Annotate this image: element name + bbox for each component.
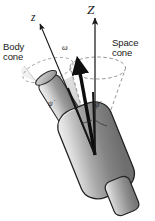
gyroscope-body-space-cone-figure: Body cone Space cone z Z ω ψ̇ φ̇ [0, 0, 155, 221]
figure-canvas [0, 0, 155, 221]
spin-rate-label: ψ̇ [48, 100, 53, 108]
body-axis-label: z [31, 12, 35, 24]
space-cone-label: Space cone [112, 38, 138, 57]
precession-rate-label: φ̇ [95, 101, 99, 109]
body-cone-label: Body cone [3, 42, 24, 61]
space-axis-label: Z [87, 3, 95, 17]
omega-label: ω [62, 44, 68, 52]
